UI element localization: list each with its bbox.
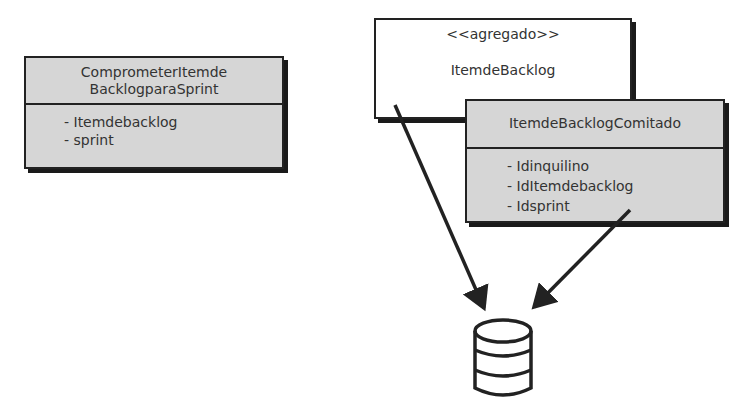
database-icon xyxy=(475,320,531,395)
arrow-aggregate-to-database xyxy=(395,105,484,308)
arrow-event-to-database xyxy=(534,210,630,307)
connectors-layer xyxy=(0,0,751,417)
